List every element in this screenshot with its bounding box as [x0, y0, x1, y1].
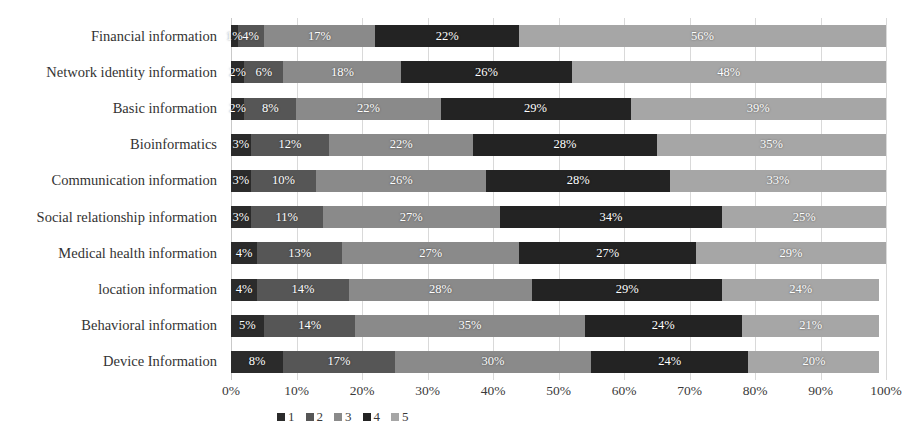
bar-segment: 28%	[486, 170, 669, 192]
bar-segment: 28%	[473, 134, 656, 156]
bar-segment: 35%	[657, 134, 886, 156]
bar-segment: 17%	[283, 351, 394, 373]
bar-segment-value-label: 25%	[793, 210, 816, 225]
plot-area: 1%4%17%22%56%2%6%18%26%48%2%8%22%29%39%3…	[231, 18, 886, 380]
bar-segment-value-label: 29%	[524, 101, 547, 116]
bar-segment: 12%	[251, 134, 330, 156]
bar-segment: 22%	[329, 134, 473, 156]
bar-segment: 14%	[264, 315, 356, 337]
bar-segment-value-label: 48%	[717, 65, 740, 80]
bar-segment: 27%	[323, 206, 500, 228]
bar-segment: 56%	[519, 25, 886, 47]
bar-segment-value-label: 24%	[652, 318, 675, 333]
x-axis-tick: 50%	[546, 383, 571, 399]
legend-label: 4	[374, 409, 381, 425]
bar-segment: 24%	[591, 351, 748, 373]
bar-segment-value-label: 4%	[242, 29, 259, 44]
y-axis-label: Basic information	[0, 90, 224, 126]
gridline	[886, 18, 887, 380]
bar-segment: 28%	[349, 279, 532, 301]
bar-segment-value-label: 18%	[331, 65, 354, 80]
y-axis-label: Device Information	[0, 344, 224, 380]
legend-item[interactable]: 2	[306, 409, 324, 425]
bar-segment: 10%	[251, 170, 317, 192]
bar-row: 8%17%30%24%20%	[231, 344, 886, 380]
bar-segment: 18%	[283, 61, 401, 83]
bar-segment: 11%	[251, 206, 323, 228]
legend-label: 2	[317, 409, 324, 425]
legend-swatch-icon	[306, 413, 314, 421]
bar-segment: 2%	[231, 61, 244, 83]
bar-segment-value-label: 21%	[799, 318, 822, 333]
bar-segment: 3%	[231, 170, 251, 192]
bar-segment-value-label: 5%	[239, 318, 256, 333]
bar-segment-value-label: 29%	[616, 282, 639, 297]
legend-item[interactable]: 1	[277, 409, 295, 425]
stacked-bar: 5%14%35%24%21%	[231, 315, 886, 337]
bar-segment-value-label: 34%	[599, 210, 622, 225]
bar-segment: 4%	[238, 25, 264, 47]
stacked-bar: 4%14%28%29%24%	[231, 279, 886, 301]
bar-segment: 4%	[231, 242, 257, 264]
bar-segment-value-label: 3%	[232, 173, 249, 188]
bar-segment-value-label: 27%	[400, 210, 423, 225]
y-axis-label: Medical health information	[0, 235, 224, 271]
bar-segment-value-label: 28%	[554, 137, 577, 152]
bar-segment: 27%	[342, 242, 519, 264]
bar-segment-value-label: 56%	[691, 29, 714, 44]
legend-label: 3	[345, 409, 352, 425]
bar-segment-value-label: 24%	[789, 282, 812, 297]
bar-segment-value-label: 39%	[747, 101, 770, 116]
y-axis-label: Social relationship information	[0, 199, 224, 235]
bar-segment-value-label: 35%	[459, 318, 482, 333]
bar-segment-value-label: 2%	[229, 65, 246, 80]
bar-segment-value-label: 20%	[802, 354, 825, 369]
bar-segment-value-label: 35%	[760, 137, 783, 152]
bar-segment-value-label: 29%	[780, 246, 803, 261]
bar-row: 2%6%18%26%48%	[231, 54, 886, 90]
bar-segment-value-label: 28%	[429, 282, 452, 297]
legend-item[interactable]: 4	[363, 409, 381, 425]
stacked-bar: 2%8%22%29%39%	[231, 98, 886, 120]
bar-row: 4%13%27%27%29%	[231, 235, 886, 271]
stacked-bar: 8%17%30%24%20%	[231, 351, 886, 373]
bar-segment-value-label: 10%	[272, 173, 295, 188]
bar-segment-value-label: 3%	[232, 210, 249, 225]
legend-item[interactable]: 5	[391, 409, 409, 425]
bar-segment-value-label: 8%	[249, 354, 266, 369]
bar-segment: 39%	[631, 98, 886, 120]
bar-segment: 22%	[375, 25, 519, 47]
bar-segment-value-label: 8%	[262, 101, 279, 116]
bar-segment-value-label: 28%	[567, 173, 590, 188]
x-axis-tick: 40%	[481, 383, 506, 399]
bar-segment: 29%	[696, 242, 886, 264]
bar-segment-value-label: 4%	[236, 282, 253, 297]
bar-row: 3%11%27%34%25%	[231, 199, 886, 235]
bar-segment: 24%	[585, 315, 742, 337]
bar-segment: 2%	[231, 98, 244, 120]
bar-segment: 29%	[532, 279, 722, 301]
bar-segment-value-label: 14%	[292, 282, 315, 297]
bar-segment-value-label: 26%	[475, 65, 498, 80]
bar-segment: 22%	[296, 98, 440, 120]
stacked-bar: 2%6%18%26%48%	[231, 61, 886, 83]
y-axis-label: Network identity information	[0, 54, 224, 90]
x-axis-tick: 90%	[808, 383, 833, 399]
bar-segment: 27%	[519, 242, 696, 264]
bar-segment: 5%	[231, 315, 264, 337]
bar-row: 5%14%35%24%21%	[231, 308, 886, 344]
bar-segment: 8%	[231, 351, 283, 373]
bar-segment-value-label: 22%	[357, 101, 380, 116]
bar-segment: 14%	[257, 279, 349, 301]
bar-segment-value-label: 3%	[232, 137, 249, 152]
y-axis-label: Financial information	[0, 18, 224, 54]
bar-segment-value-label: 22%	[390, 137, 413, 152]
bar-segment-value-label: 1%	[226, 29, 243, 44]
legend-item[interactable]: 3	[334, 409, 352, 425]
bar-segment: 26%	[316, 170, 486, 192]
bar-segment: 3%	[231, 206, 251, 228]
bar-segment: 3%	[231, 134, 251, 156]
y-axis-label: Bioinformatics	[0, 127, 224, 163]
stacked-bar: 4%13%27%27%29%	[231, 242, 886, 264]
